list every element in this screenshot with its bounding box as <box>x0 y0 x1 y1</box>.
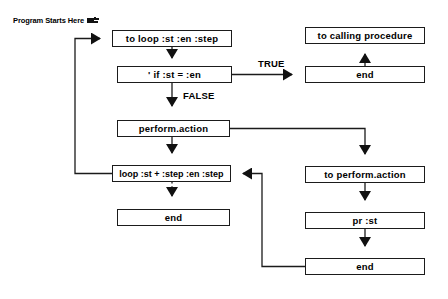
edge-label-false: FALSE <box>183 90 215 101</box>
flowchart-canvas: Program Starts Here <box>0 0 448 299</box>
edge-label-true: TRUE <box>258 58 285 69</box>
node-to-calling-procedure[interactable]: to calling procedure <box>305 27 425 44</box>
edge-looprecurse-feedback-to-toloop <box>75 39 112 174</box>
node-if-test[interactable]: ' if :st = :en <box>117 66 232 83</box>
node-perform-end-label: end <box>356 261 374 272</box>
node-perform-end[interactable]: end <box>305 258 425 275</box>
node-true-end-label: end <box>356 69 374 80</box>
node-to-perform-action-label: to perform.action <box>324 169 406 180</box>
edge-performend-return-to-looprecurse <box>243 174 305 267</box>
node-loop-recurse[interactable]: loop :st + :step :en :step <box>112 165 231 182</box>
edge-performaction-to-toperformaction <box>230 129 365 155</box>
node-loop-recurse-label: loop :st + :step :en :step <box>119 169 223 179</box>
edge-label-false-text: FALSE <box>183 90 215 101</box>
program-start-label: Program Starts Here <box>13 16 84 25</box>
node-pr-st-label: pr :st <box>353 215 378 226</box>
node-to-loop-label: to loop :st :en :step <box>126 33 218 44</box>
edge-label-true-text: TRUE <box>258 58 285 69</box>
node-perform-action[interactable]: perform.action <box>117 120 230 137</box>
node-loop-end-label: end <box>165 212 183 223</box>
node-if-test-label: ' if :st = :en <box>148 69 201 80</box>
program-start-note: Program Starts Here <box>13 16 99 25</box>
node-true-end[interactable]: end <box>305 66 425 83</box>
node-to-perform-action[interactable]: to perform.action <box>305 166 425 183</box>
node-perform-action-label: perform.action <box>139 123 208 134</box>
pointing-hand-icon <box>87 17 99 25</box>
node-pr-st[interactable]: pr :st <box>305 212 425 229</box>
node-to-calling-procedure-label: to calling procedure <box>318 30 413 41</box>
node-loop-end[interactable]: end <box>117 209 230 226</box>
node-to-loop[interactable]: to loop :st :en :step <box>112 30 232 47</box>
